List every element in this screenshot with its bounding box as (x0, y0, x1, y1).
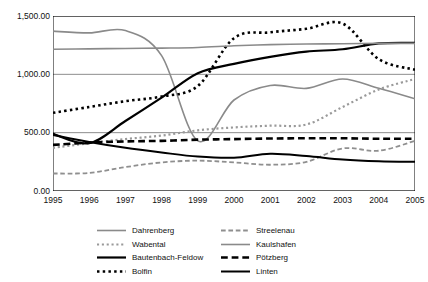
plot-area (53, 16, 415, 191)
legend-item[interactable]: Bautenbach-Feldow (97, 251, 215, 265)
legend-item[interactable]: Kaulshafen (221, 238, 369, 252)
legend-item[interactable]: Dahrenberg (97, 224, 215, 238)
legend-label: Bolfin (132, 267, 152, 276)
legend-item[interactable]: Bolfin (97, 265, 215, 279)
y-axis-tick-label: 1,500.00 (2, 12, 50, 21)
series-line-p-tzberg (53, 138, 415, 145)
y-axis-tick-label: 500.00 (2, 128, 50, 137)
legend-label: Streelenau (256, 226, 295, 235)
series-line-wabental (53, 79, 415, 148)
legend-swatch-linten-icon (221, 267, 250, 276)
legend-swatch-kaulshafen-icon (221, 240, 250, 249)
series-line-linten (53, 135, 415, 162)
legend-item[interactable]: Wabental (97, 238, 215, 252)
x-axis-tick-label: 1999 (181, 196, 215, 205)
x-axis-tick-label: 2003 (326, 196, 360, 205)
legend-label: Kaulshafen (256, 240, 296, 249)
y-axis-tick-label: 1,000.00 (2, 70, 50, 79)
x-axis-tick-label: 1996 (72, 196, 106, 205)
legend-swatch-bautenbach-feldow-icon (97, 253, 126, 262)
legend-swatch-bolfin-icon (97, 267, 126, 276)
x-axis-tick-label: 1998 (145, 196, 179, 205)
x-axis-tick-label: 2005 (398, 196, 428, 205)
series-line-bautenbach-feldow (53, 43, 415, 144)
plot-canvas (53, 16, 415, 191)
legend-swatch-dahrenberg-icon (97, 226, 126, 235)
legend-swatch-p-tzberg-icon (221, 253, 250, 262)
x-axis-tick-label: 2002 (289, 196, 323, 205)
legend-item[interactable]: Streelenau (221, 224, 369, 238)
y-axis: 0.00500.001,000.001,500.00 (0, 0, 50, 200)
legend-item[interactable]: Pötzberg (221, 251, 369, 265)
x-axis-tick-label: 2004 (362, 196, 396, 205)
legend-label: Linten (256, 267, 278, 276)
legend-swatch-streelenau-icon (221, 226, 250, 235)
legend-swatch-wabental-icon (97, 240, 126, 249)
chart-legend: DahrenbergStreelenauWabentalKaulshafenBa… (97, 224, 387, 278)
x-axis-tick-label: 2000 (217, 196, 251, 205)
legend-item[interactable]: Linten (221, 265, 369, 279)
chart-figure: 0.00500.001,000.001,500.00 1995199619971… (0, 0, 428, 282)
legend-label: Wabental (132, 240, 166, 249)
x-axis-tick-label: 2001 (253, 196, 287, 205)
x-axis: 1995199619971998199920002001200220032004… (53, 196, 415, 210)
legend-label: Dahrenberg (132, 226, 174, 235)
x-axis-tick-label: 1997 (108, 196, 142, 205)
y-axis-tick-label: 0.00 (2, 187, 50, 196)
legend-label: Bautenbach-Feldow (132, 253, 203, 262)
x-axis-tick-label: 1995 (36, 196, 70, 205)
legend-label: Pötzberg (256, 253, 288, 262)
